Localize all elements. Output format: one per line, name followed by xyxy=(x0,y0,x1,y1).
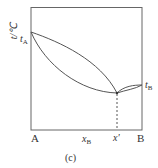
lower-curve xyxy=(31,32,117,93)
component-a-label: A xyxy=(31,133,39,144)
upper-curve xyxy=(31,32,117,93)
x-b-label: xB xyxy=(82,134,91,146)
phase-diagram xyxy=(0,0,158,168)
t-b-label: tB xyxy=(145,80,152,92)
t-a-label: tA xyxy=(20,34,28,46)
minimum-point xyxy=(116,92,118,94)
x-prime-label: x' xyxy=(113,133,120,143)
component-b-label: B xyxy=(137,133,144,144)
caption: (c) xyxy=(65,153,76,163)
diagram-frame xyxy=(31,8,142,131)
y-axis-label: t/℃ xyxy=(9,23,19,40)
